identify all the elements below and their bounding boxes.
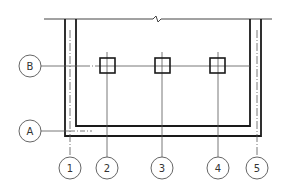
axis-bubble-b: B: [19, 55, 41, 77]
svg-text:4: 4: [215, 163, 221, 174]
axis-bubble-5: 5: [246, 157, 268, 179]
column-3: [155, 58, 170, 73]
vertical-axis-lines: [70, 30, 257, 157]
grid-plan-drawing: B A 1 2 3 4 5: [0, 0, 288, 194]
svg-text:5: 5: [254, 163, 260, 174]
axis-bubble-1: 1: [59, 157, 81, 179]
svg-text:1: 1: [67, 163, 73, 174]
svg-text:2: 2: [104, 163, 110, 174]
svg-text:3: 3: [159, 163, 165, 174]
break-symbol-icon: [153, 16, 161, 22]
axis-bubble-4: 4: [207, 157, 229, 179]
axis-bubble-2: 2: [96, 157, 118, 179]
svg-text:B: B: [27, 61, 34, 72]
axis-bubble-3: 3: [151, 157, 173, 179]
column-4: [210, 58, 225, 73]
column-2: [100, 58, 115, 73]
svg-text:A: A: [27, 126, 34, 137]
axis-bubble-a: A: [19, 120, 41, 142]
top-boundary-line: [44, 16, 272, 22]
columns: [100, 58, 225, 73]
wall-outline: [65, 19, 261, 136]
